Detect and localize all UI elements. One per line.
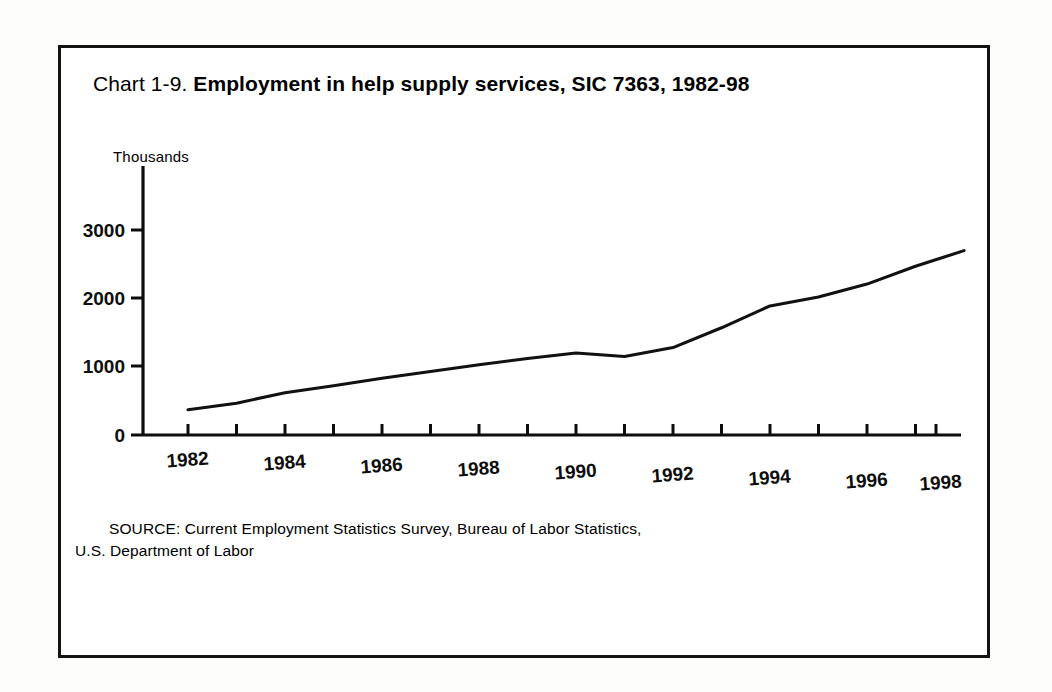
x-axis-ticks: [188, 424, 936, 435]
chart-plot: 3000 2000 1000 0 1982 1984: [61, 48, 993, 661]
x-tick-label-1988: 1988: [457, 457, 501, 481]
data-series-line: [188, 251, 964, 410]
x-tick-label-1986: 1986: [360, 454, 404, 478]
x-tick-label-1990: 1990: [554, 460, 598, 484]
x-tick-label-1998: 1998: [919, 471, 963, 495]
source-note-line2: U.S. Department of Labor: [75, 542, 254, 559]
y-tick-label-3000: 3000: [83, 220, 125, 241]
x-tick-label-1996: 1996: [845, 469, 889, 493]
y-tick-label-2000: 2000: [83, 288, 125, 309]
x-tick-label-1994: 1994: [748, 466, 792, 490]
y-axis-ticks: [131, 230, 143, 435]
x-tick-label-1992: 1992: [651, 463, 695, 487]
source-note-line1: SOURCE: Current Employment Statistics Su…: [75, 520, 641, 537]
x-tick-label-1982: 1982: [166, 448, 210, 472]
chart-frame: Chart 1-9. Employment in help supply ser…: [58, 45, 990, 658]
y-tick-label-1000: 1000: [83, 356, 125, 377]
x-tick-label-1984: 1984: [263, 451, 307, 475]
y-tick-label-0: 0: [114, 425, 125, 446]
source-note: SOURCE: Current Employment Statistics Su…: [75, 518, 955, 562]
x-axis-tick-labels: 1982 1984 1986 1988 1990 1992 1994 1996 …: [166, 448, 963, 495]
